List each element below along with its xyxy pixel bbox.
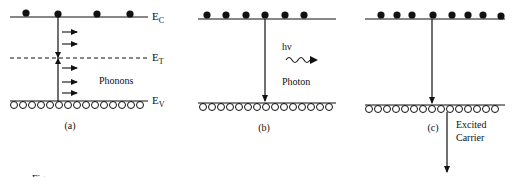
caption-a: (a) — [64, 120, 75, 132]
electrons-a — [22, 9, 133, 17]
ec-label: EC — [152, 10, 164, 25]
recombination-diagram: EC ET Phonons EV (a) — [0, 0, 515, 177]
trap-arrowhead-down — [55, 52, 61, 58]
phonons-label: Phonons — [99, 75, 134, 86]
panel-c: (c) Excited Carrier — [365, 11, 505, 172]
caption-c: (c) — [427, 122, 438, 134]
electrons-c — [377, 11, 504, 19]
holes-c — [366, 106, 499, 113]
et-label: ET — [152, 51, 164, 66]
trap-arrowhead-up — [55, 58, 61, 64]
electrons-b — [203, 11, 307, 18]
holes-a — [11, 102, 144, 109]
figure-caption-fragment: Fig. — [32, 173, 48, 177]
caption-b: (b) — [258, 122, 270, 134]
ev-label: EV — [152, 94, 165, 109]
excited-label: Excited — [456, 119, 487, 130]
holes-b — [200, 104, 333, 111]
photon-label: Photon — [282, 76, 310, 87]
hv-label: hν — [282, 41, 292, 52]
panel-b: hν Photon (b) — [198, 11, 336, 134]
photon-wave-icon — [286, 58, 310, 63]
photon-arrowhead — [310, 56, 318, 64]
carrier-label: Carrier — [456, 132, 485, 143]
phonon-arrows — [62, 32, 77, 93]
panel-a: EC ET Phonons EV (a) — [10, 9, 165, 132]
